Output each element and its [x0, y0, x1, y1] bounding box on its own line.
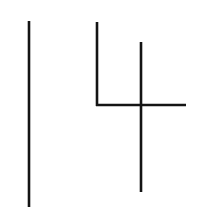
- drawing-canvas: Handwritten character strokes | 4 Hand-d…: [0, 0, 200, 209]
- ink-strokes-svg: [0, 0, 200, 209]
